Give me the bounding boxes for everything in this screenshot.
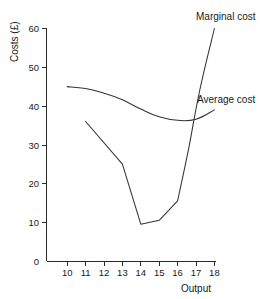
x-tick-label: 13 — [117, 267, 128, 278]
x-tick-label: 17 — [191, 267, 202, 278]
y-tick-label: 40 — [28, 101, 39, 112]
x-tick-label: 16 — [172, 267, 183, 278]
y-tick-label: 60 — [28, 23, 39, 34]
average-cost-label: Average cost — [197, 94, 255, 105]
y-axis-title: Costs (£) — [9, 21, 20, 62]
x-tick-label: 11 — [81, 267, 91, 278]
x-tick-label: 18 — [209, 267, 220, 278]
average-cost-curve — [67, 87, 214, 121]
x-tick-label: 10 — [62, 267, 73, 278]
y-tick-label: 50 — [28, 62, 39, 73]
y-tick-label: 20 — [28, 178, 39, 189]
y-tick-label: 10 — [28, 217, 39, 228]
y-tick-label: 30 — [28, 140, 39, 151]
costs-output-line-chart: Costs (£) 60 50 40 30 20 10 0 10 11 12 — [0, 0, 277, 299]
x-tick-label: 14 — [136, 267, 147, 278]
marginal-cost-curve — [86, 29, 215, 225]
y-tick-label-zero: 0 — [34, 256, 39, 267]
x-tick-label: 15 — [154, 267, 165, 278]
x-tick-label: 12 — [99, 267, 110, 278]
y-axis-ticks: 60 50 40 30 20 10 0 — [28, 23, 46, 267]
x-axis-title: Output — [181, 283, 211, 294]
x-axis-ticks: 10 11 12 13 14 15 16 17 18 — [62, 262, 220, 279]
chart-container: Costs (£) 60 50 40 30 20 10 0 10 11 12 — [0, 0, 277, 299]
marginal-cost-label: Marginal cost — [196, 11, 256, 22]
